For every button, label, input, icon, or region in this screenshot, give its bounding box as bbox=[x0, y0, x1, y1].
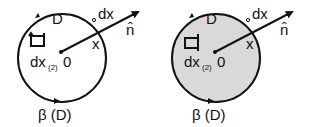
boundary-label: β (D) bbox=[192, 106, 226, 123]
region-label: D bbox=[52, 10, 63, 27]
area-element-label: dx bbox=[30, 53, 46, 70]
line-element-label: dx bbox=[252, 5, 268, 22]
normal-label: n̂ bbox=[126, 21, 134, 38]
origin-label: 0 bbox=[63, 53, 71, 70]
point-x-label: x bbox=[246, 35, 254, 52]
boundary-label: β (D) bbox=[38, 106, 72, 123]
area-element-subscript: (2) bbox=[48, 63, 58, 72]
area-element-subscript: (2) bbox=[202, 63, 212, 72]
point-x-label: x bbox=[92, 35, 100, 52]
region-label: D bbox=[206, 10, 217, 27]
diagram-canvas: D dx (2) 0 dx x n̂ β (D) D dx (2) 0 bbox=[0, 0, 310, 127]
line-element-mark bbox=[92, 18, 95, 21]
boundary-orientation-arrow-top bbox=[35, 13, 40, 18]
normal-label: n̂ bbox=[280, 21, 288, 38]
panel-left: D dx (2) 0 dx x n̂ β (D) bbox=[18, 5, 138, 123]
origin-label: 0 bbox=[217, 53, 225, 70]
line-element-mark bbox=[246, 18, 249, 21]
area-element-label: dx bbox=[184, 53, 200, 70]
panel-right: D dx (2) 0 dx x n̂ β (D) bbox=[172, 5, 292, 123]
boundary-orientation-arrow-top bbox=[189, 13, 194, 18]
line-element-label: dx bbox=[98, 5, 114, 22]
